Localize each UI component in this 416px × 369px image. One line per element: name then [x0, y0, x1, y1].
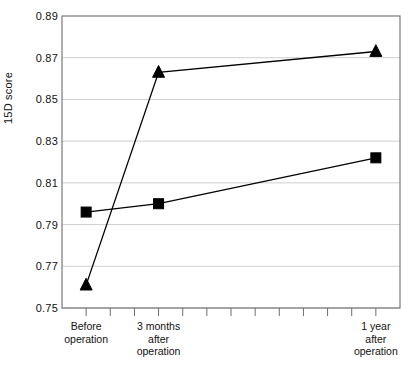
data-point-triangle: [80, 278, 92, 290]
data-point-square: [371, 153, 381, 163]
series-line-triangle: [86, 52, 376, 286]
y-tick-label: 0.85: [12, 93, 58, 105]
data-point-square: [81, 207, 91, 217]
plot-area: [0, 0, 416, 369]
x-tick-label: 1 year after operation: [330, 320, 416, 358]
y-tick-label: 0.81: [12, 177, 58, 189]
y-tick-label: 0.79: [12, 219, 58, 231]
y-tick-label: 0.89: [12, 10, 58, 22]
x-tick-label: 3 months after operation: [113, 320, 205, 358]
y-tick-label: 0.87: [12, 52, 58, 64]
data-point-triangle: [370, 45, 382, 57]
y-axis-tick-labels: 0.890.870.850.830.810.790.770.75: [6, 0, 58, 369]
plot-frame: [62, 16, 400, 308]
y-tick-label: 0.83: [12, 135, 58, 147]
series-line-square: [86, 158, 376, 212]
y-tick-label: 0.75: [12, 302, 58, 314]
data-point-square: [154, 199, 164, 209]
y-tick-label: 0.77: [12, 260, 58, 272]
chart-container: 15D score 0.890.870.850.830.810.790.770.…: [0, 0, 416, 369]
